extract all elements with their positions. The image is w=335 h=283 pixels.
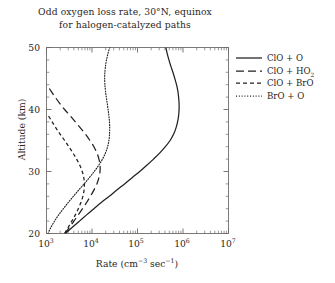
- plot-curves: [48, 48, 179, 234]
- curve-clo-bro: [48, 116, 84, 234]
- figure-odd-oxygen-loss-rate: Odd oxygen loss rate, 30°N, equinox for …: [0, 0, 335, 283]
- curve-clo-ho2: [49, 88, 100, 234]
- legend-item-bro-o: BrO + O: [236, 90, 314, 103]
- plot-axes: [47, 48, 229, 234]
- legend-item-clo-o: ClO + O: [236, 52, 314, 65]
- plot-canvas: [0, 0, 335, 283]
- legend-label-clo-bro: ClO + BrO: [267, 77, 314, 90]
- curve-clo-o: [65, 48, 179, 234]
- legend-item-clo-ho2: ClO + HO2: [236, 65, 314, 78]
- legend-label-clo-o: ClO + O: [267, 52, 303, 65]
- legend-label-clo-ho2-text: ClO + HO: [267, 66, 311, 76]
- legend-label-bro-o: BrO + O: [267, 90, 304, 103]
- legend-swatch-shortdash: [236, 78, 262, 88]
- legend-label-clo-ho2: ClO + HO2: [267, 65, 314, 78]
- legend-item-clo-bro: ClO + BrO: [236, 77, 314, 90]
- legend-swatch-longdash: [236, 66, 262, 76]
- curve-bro-o: [48, 48, 110, 234]
- chart-legend: ClO + O ClO + HO2 ClO + BrO BrO + O: [236, 52, 314, 102]
- legend-swatch-dotted: [236, 91, 262, 101]
- legend-swatch-solid: [236, 53, 262, 63]
